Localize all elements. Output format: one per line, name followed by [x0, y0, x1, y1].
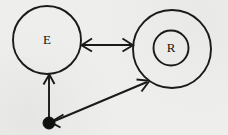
diagram-canvas: E R [0, 0, 228, 135]
node-r[interactable]: R [133, 10, 211, 88]
edge-dot-to-r [51, 80, 150, 128]
node-r-label: R [167, 40, 176, 55]
initial-state-dot[interactable] [43, 117, 55, 129]
diagram-svg: E R [0, 0, 228, 135]
edge-e-to-r [82, 39, 134, 52]
edge-dot-to-e [44, 75, 55, 122]
edge-dot-to-r-line [52, 82, 147, 122]
node-e[interactable]: E [13, 6, 81, 74]
node-e-label: E [43, 32, 51, 47]
